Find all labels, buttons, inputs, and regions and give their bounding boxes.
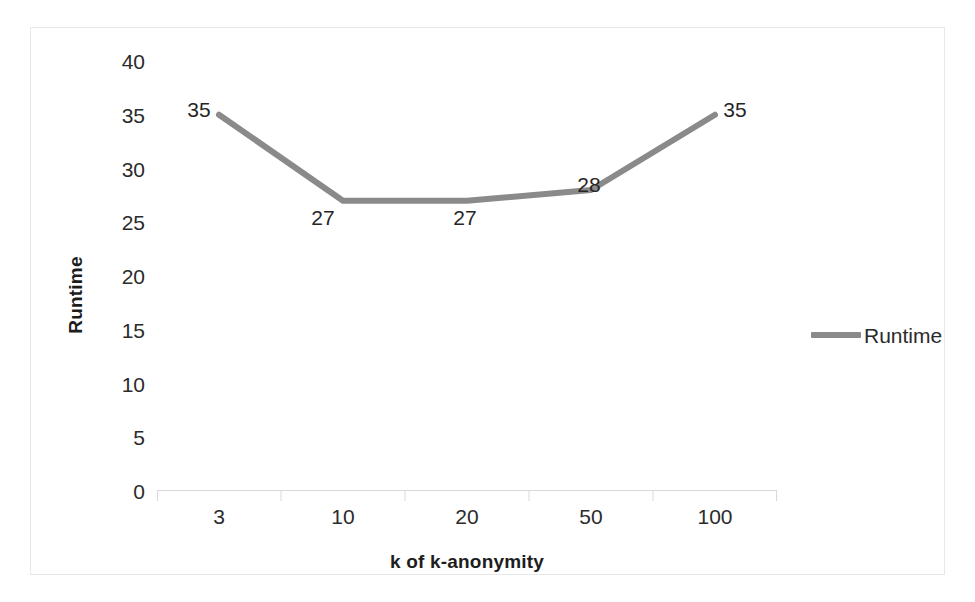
data-point-label: 35 [187, 98, 210, 119]
chart-frame: Runtime 4035302520151050 3527272835 3102… [30, 27, 945, 575]
data-point-label: 35 [723, 98, 746, 119]
x-axis-tick-label: 10 [331, 506, 354, 527]
y-axis-tick-label: 10 [93, 373, 145, 394]
y-axis-tick-label: 15 [93, 319, 145, 340]
x-axis-line [157, 490, 777, 504]
x-axis-tick-labels: 3102050100 [157, 506, 777, 536]
x-axis-tick-label: 3 [213, 506, 225, 527]
data-point-label: 27 [453, 206, 476, 227]
y-axis-tick-label: 20 [93, 266, 145, 287]
y-axis-title: Runtime [61, 240, 91, 350]
x-axis-title: k of k-anonymity [157, 551, 777, 573]
y-axis-tick-label: 40 [93, 51, 145, 72]
y-axis-tick-label: 35 [93, 104, 145, 125]
data-point-label: 28 [577, 174, 600, 195]
x-axis-tick-label: 20 [455, 506, 478, 527]
x-axis-tick-label: 50 [579, 506, 602, 527]
legend-swatch-runtime [811, 332, 861, 338]
data-point-label: 27 [311, 206, 334, 227]
series-line-runtime [157, 61, 777, 491]
y-axis-tick-label: 30 [93, 158, 145, 179]
y-axis-title-text: Runtime [65, 256, 87, 333]
legend-label-runtime: Runtime [864, 325, 942, 346]
chart-legend: Runtime [811, 322, 942, 348]
y-axis-tick-labels: 4035302520151050 [93, 61, 145, 499]
y-axis-tick-label: 0 [93, 481, 145, 502]
y-axis-tick-label: 25 [93, 212, 145, 233]
plot-area: 3527272835 [157, 61, 777, 491]
x-axis-tick-label: 100 [697, 506, 732, 527]
y-axis-tick-label: 5 [93, 427, 145, 448]
